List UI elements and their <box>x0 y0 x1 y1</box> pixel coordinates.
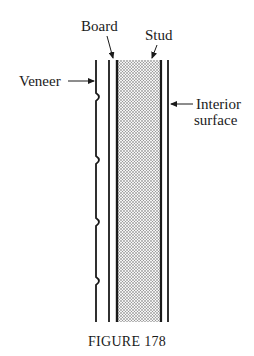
stud-fill <box>118 60 160 322</box>
interior-surface-label-line1: Interior <box>196 96 241 112</box>
wall-section-figure: Board Stud Veneer Interior surface FIGUR… <box>0 0 254 356</box>
veneer-label: Veneer <box>19 73 61 89</box>
board-leader-arrow <box>107 36 113 58</box>
board-label: Board <box>81 18 118 34</box>
stud-label: Stud <box>145 27 173 43</box>
wall-section-diagram <box>0 0 254 356</box>
veneer-line <box>96 60 99 322</box>
stud-leader-arrow <box>152 45 157 58</box>
figure-caption: FIGURE 178 <box>0 334 254 350</box>
interior-surface-label-line2: surface <box>194 112 237 128</box>
